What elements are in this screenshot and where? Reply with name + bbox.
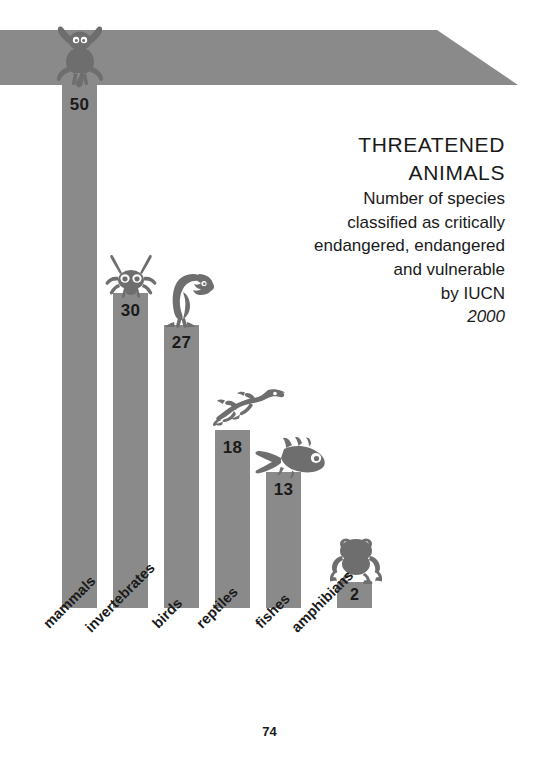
caption-title-line-1: THREATENED [245, 131, 505, 159]
bar-value-reptiles: 18 [215, 438, 250, 458]
caption-sub-line-4: and vulnerable [245, 259, 505, 282]
fish-icon [254, 437, 330, 479]
caption-sub-line-3: endangered, endangered [245, 235, 505, 258]
lizard-icon [212, 382, 286, 434]
monkey-icon [52, 19, 108, 89]
caption-sub-line-2: classified as critically [245, 212, 505, 235]
page-number: 74 [0, 724, 539, 739]
bar-value-fishes: 13 [266, 480, 301, 500]
beetle-icon [104, 255, 158, 299]
parrot-icon [165, 270, 215, 328]
bar-reptiles: 18 [215, 430, 250, 608]
infographic-page: 50 30 [0, 0, 539, 759]
bar-invertebrates: 30 [113, 293, 148, 608]
bar-value-invertebrates: 30 [113, 301, 148, 321]
caption-sub-line-1: Number of species [245, 188, 505, 211]
category-label-birds: birds [149, 595, 185, 631]
bar-mammals: 50 [62, 85, 97, 608]
caption-title-line-2: ANIMALS [245, 159, 505, 187]
caption-year: 2000 [245, 306, 505, 329]
caption-block: THREATENED ANIMALS Number of species cla… [245, 131, 505, 328]
bar-value-birds: 27 [164, 333, 199, 353]
caption-sub-line-5: by IUCN [245, 283, 505, 306]
bar-value-mammals: 50 [62, 95, 97, 115]
bar-fishes: 13 [266, 472, 301, 608]
bar-birds: 27 [164, 325, 199, 608]
